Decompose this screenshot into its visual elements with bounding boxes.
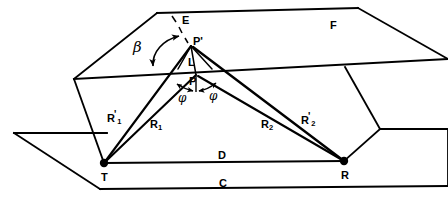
upper-plane-F: [74, 8, 448, 79]
upper-plane-left-edge: [74, 13, 157, 79]
transmitter-dot: [100, 159, 108, 167]
label-angle-phi-right: φ: [209, 90, 217, 102]
upper-plane-back-edge: [157, 8, 358, 13]
label-ray-R1-prime-mark: ': [114, 109, 116, 120]
baseline-D: [104, 161, 344, 163]
normal-dash-2: [179, 27, 182, 33]
normal-dash-1: [172, 16, 176, 22]
lower-plane-front-edge-C: [100, 186, 448, 189]
label-ray-R1-sub: 1: [158, 123, 162, 132]
angle-beta-arc-path: [153, 36, 179, 66]
diagram-canvas: E P' L P β φ φ F R'1 R1 R2 R'2 D T R C: [0, 0, 448, 205]
lower-plane-left-edge: [14, 133, 100, 189]
label-angle-beta: β: [133, 40, 142, 55]
baseline-D-line: [104, 161, 344, 163]
rays-to-receiver: [193, 47, 344, 161]
label-plane-F: F: [330, 20, 337, 31]
label-angle-phi-left: φ: [178, 92, 186, 104]
label-ray-R2-sub: 2: [269, 123, 273, 132]
label-ray-R1-base: R: [150, 118, 158, 130]
label-plane-C: C: [219, 178, 227, 189]
label-ray-R2-prime-mark: ': [308, 111, 310, 122]
label-point-L: L: [188, 57, 195, 68]
diagram-svg: [0, 0, 448, 205]
right-wall-edge-lower: [344, 129, 380, 161]
lower-plane-C: [14, 129, 448, 189]
label-ray-R2: R2: [261, 119, 273, 130]
label-normal-E: E: [182, 15, 189, 26]
label-point-P: P: [189, 76, 196, 87]
label-node-T: T: [101, 172, 108, 183]
label-ray-R1-prime-sub: 1: [117, 117, 121, 126]
label-ray-R1-prime: R'1: [107, 113, 122, 124]
left-wall-edge: [74, 79, 104, 163]
normal-dash-3: [185, 38, 188, 43]
label-ray-R2-prime: R'2: [301, 115, 316, 126]
upper-plane-front-edge: [74, 59, 448, 79]
label-ray-R2-base: R: [261, 118, 269, 130]
label-point-P-prime: P': [193, 36, 203, 47]
label-ray-R2-prime-sub: 2: [311, 119, 315, 128]
apex-triangle: [178, 46, 212, 75]
label-node-R: R: [341, 170, 349, 181]
receiver-dot: [340, 157, 348, 165]
label-ray-R1: R1: [150, 119, 162, 130]
ray-R2-prime-path: [193, 47, 344, 161]
angle-beta-arc: [153, 36, 179, 66]
upper-plane-right-edge: [358, 8, 448, 59]
right-wall-edge-upper: [345, 67, 380, 129]
label-baseline-D: D: [218, 150, 226, 161]
